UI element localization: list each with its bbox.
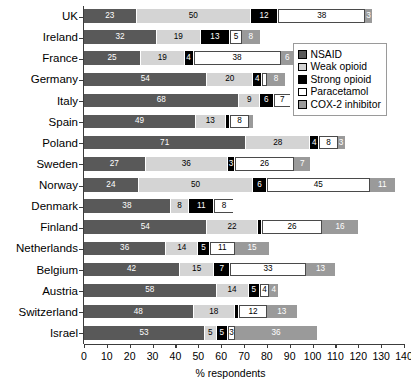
bar-segment-value: 12 [260,12,269,20]
bar-segment-value: 38 [233,54,242,62]
x-axis-tick-label: 120 [350,350,368,362]
bar-segment: 8 [267,73,285,87]
stacked-bar: 4913282 [84,115,253,129]
bar-segment: 9 [239,94,260,108]
stacked-bar: 5420428 [84,73,285,87]
bar-segment: 5 [230,30,241,44]
x-axis-tick [313,344,314,348]
chart-row: Israel5355336 [84,323,404,344]
x-axis-tick-label: 130 [372,350,390,362]
x-axis-tick-label: 50 [192,350,204,362]
stacked-bar: 27363267 [84,157,310,171]
chart-row: Sweden27363267 [84,154,404,175]
bar-segment: 3 [228,326,235,340]
bar-segment-value: 4 [186,54,191,62]
stacked-bar: 68967 [84,94,290,108]
bar-segment-value: 13 [277,308,286,316]
stacked-bar: 25194386 [84,51,294,65]
bar-segment: 38 [84,199,171,213]
y-axis-tick [79,333,83,334]
bar-segment: 13 [196,115,226,129]
bar-segment: 19 [141,51,184,65]
bar-segment: 38 [278,9,365,23]
bar-segment: 7 [294,157,310,171]
bar-segment: 8 [214,199,232,213]
bar-segment-value: 14 [228,286,237,294]
legend-swatch-icon [298,88,307,97]
bar-segment-value: 19 [174,33,183,41]
bar-segment: 7 [214,263,230,277]
x-axis-tick [107,344,108,348]
bar-segment-value: 26 [287,223,296,231]
bar-segment: 12 [239,305,266,319]
bar-segment: 3 [228,157,235,171]
legend-item: Paracetamol [298,86,381,99]
x-axis-tick-label: 0 [81,350,87,362]
bar-segment-value: 48 [134,308,143,316]
bar-segment: 38 [194,51,281,65]
bar-segment: 22 [207,220,257,234]
bar-segment-value: 54 [141,75,150,83]
bar-segment-value: 5 [219,329,224,337]
bar-segment: 4 [310,136,319,150]
bar-segment-value: 15 [192,265,201,273]
bar-segment: 27 [84,157,146,171]
bar-segment: 50 [137,9,251,23]
bar-segment: 15 [235,242,269,256]
bar-segment: 3 [365,9,372,23]
bar-segment: 50 [139,178,253,192]
x-axis-tick-label: 20 [124,350,136,362]
bar-segment-value: 25 [108,54,117,62]
bar-segment: 42 [84,263,180,277]
bar-segment-value: 53 [140,329,149,337]
bar-segment-value: 5 [251,286,256,294]
y-axis-tick [79,101,83,102]
bar-segment: 5 [217,326,228,340]
bar-segment-value: 22 [228,223,237,231]
stacked-bar: 245064511 [84,178,395,192]
bar-segment-value: 49 [135,117,144,125]
bar-segment-value: 15 [247,244,256,252]
legend-item: Strong opioid [298,73,381,86]
y-axis-label-poland: Poland [42,133,84,154]
bar-segment: 13 [267,305,297,319]
legend-swatch-icon [298,50,307,59]
y-axis-tick [79,312,83,313]
bar-segment: 13 [306,263,336,277]
x-axis-tick [221,344,222,348]
chart-legend: NSAIDWeak opioidStrong opioidParacetamol… [293,43,387,116]
y-axis-label-france: France [42,48,84,69]
bar-segment: 71 [84,136,246,150]
legend-label: COX-2 inhibitor [311,99,381,110]
bar-segment: 7 [274,94,290,108]
x-axis-tick-label: 30 [147,350,159,362]
bar-segment: 5 [205,326,216,340]
bar-segment: 6 [260,94,274,108]
x-axis-tick-label: 80 [261,350,273,362]
bar-segment-value: 50 [189,12,198,20]
x-axis-tick [358,344,359,348]
legend-swatch-icon [298,100,307,109]
chart-row: Belgium421573313 [84,260,404,281]
bar-segment: 18 [194,305,235,319]
bar-segment: 13 [201,30,231,44]
y-axis-label-finland: Finland [40,217,84,238]
bar-segment-value: 6 [264,96,269,104]
bar-segment: 12 [251,9,278,23]
bar-segment: 6 [253,178,267,192]
y-axis-label-belgium: Belgium [36,260,84,281]
stacked-bar: 421573313 [84,263,335,277]
x-axis-title-text: % respondents [195,367,265,379]
bar-segment-value: 3 [339,139,344,147]
x-axis-tick-label: 140 [395,350,411,362]
stacked-bar: 5814544 [84,284,278,298]
bar-segment-value: 13 [210,33,219,41]
bar-segment-value: 5 [208,329,213,337]
x-axis-tick [84,344,85,348]
bar-segment: 20 [207,73,253,87]
bar-segment-value: 16 [335,223,344,231]
bar-segment: 25 [84,51,141,65]
bar-segment: 24 [84,178,139,192]
x-axis-tick [130,344,131,348]
bar-segment: 4 [253,73,262,87]
